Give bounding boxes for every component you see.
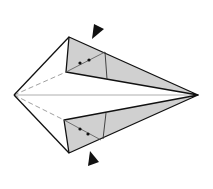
upper-dot-2 xyxy=(87,58,90,61)
upper-dot-1 xyxy=(78,61,81,64)
upper-push-arrow-icon xyxy=(92,24,104,39)
origami-diagram xyxy=(0,0,213,189)
lower-dot-2 xyxy=(86,132,89,135)
lower-push-arrow-icon xyxy=(88,151,99,166)
lower-dot-1 xyxy=(78,127,81,130)
